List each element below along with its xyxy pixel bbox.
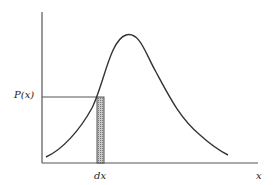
x-axis-label: x: [256, 171, 262, 181]
probability-density-curve: [46, 35, 228, 157]
strip-label: dx: [94, 171, 106, 181]
y-axis-label: P(x): [14, 90, 34, 100]
probability-density-diagram: [0, 0, 276, 185]
dx-strip: [97, 97, 104, 163]
